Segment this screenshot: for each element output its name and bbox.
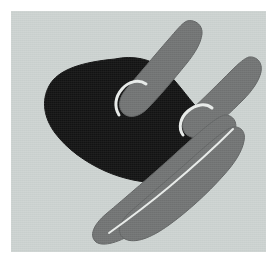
artwork-panel [11, 11, 266, 252]
hand-figure [11, 11, 266, 252]
artwork-frame [0, 0, 277, 265]
